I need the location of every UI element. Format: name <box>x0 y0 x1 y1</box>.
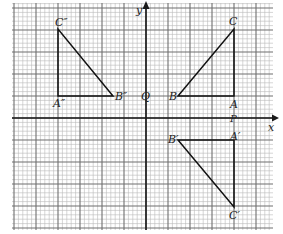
y-axis-arrow-icon <box>143 1 150 9</box>
point-q-label: Q <box>141 90 150 103</box>
vertex-b2-label: B″ <box>114 90 128 103</box>
vertex-a2-label: A″ <box>52 97 66 110</box>
vertex-c2-label: C″ <box>55 16 68 29</box>
y-axis-label: y <box>135 4 143 17</box>
vertex-a-label: A <box>229 98 238 111</box>
vertex-c1-label: C′ <box>229 209 240 222</box>
vertex-c-label: C <box>229 15 238 28</box>
graph-paper: y x Q P C B A A′ B′ C′ C″ B″ A″ <box>0 0 283 234</box>
coordinate-grid-diagram: y x Q P C B A A′ B′ C′ C″ B″ A″ <box>0 0 283 234</box>
vertex-b-label: B <box>168 90 177 103</box>
vertex-b1-label: B′ <box>167 133 179 146</box>
x-axis-label: x <box>268 121 275 134</box>
axes <box>12 1 279 230</box>
vertex-a1-label: A′ <box>229 130 241 143</box>
point-p-label: P <box>229 113 237 124</box>
